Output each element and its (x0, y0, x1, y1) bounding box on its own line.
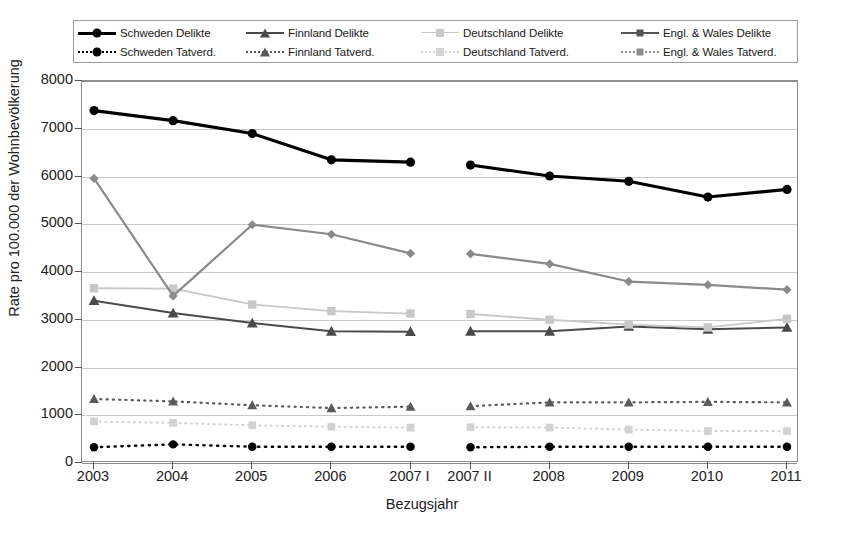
data-point-marker (406, 158, 415, 167)
data-point-marker (783, 315, 791, 323)
legend-item-label: Deutschland Delikte (463, 27, 563, 39)
data-point-marker (704, 443, 712, 451)
data-point-marker (625, 443, 633, 451)
x-tick-mark-2007-II (470, 462, 471, 469)
data-point-marker (248, 443, 256, 451)
series-layer (82, 81, 799, 463)
legend-item-finnland-delikte[interactable]: Finnland Delikte (246, 26, 421, 39)
legend-symbol-triangle-icon (246, 45, 284, 58)
legend-marker-circle-icon (93, 28, 102, 37)
legend-item-label: Finnland Delikte (288, 27, 369, 39)
y-tick-mark-4000 (75, 271, 82, 272)
y-tick-label-7000: 7000 (15, 119, 73, 135)
x-tick-mark-2011 (786, 462, 787, 469)
legend-symbol-triangle-icon (246, 26, 284, 39)
legend-item-engl-wales-tatverd[interactable]: Engl. & Wales Tatverd. (621, 45, 799, 58)
x-axis-title: Bezugsjahr (0, 496, 844, 512)
legend-grid: Schweden DelikteFinnland DelikteDeutschl… (78, 23, 793, 61)
y-tick-label-2000: 2000 (15, 358, 73, 374)
data-point-marker (545, 259, 554, 268)
legend-item-deutschland-delikte[interactable]: Deutschland Delikte (421, 26, 621, 39)
x-tick-label-2003: 2003 (77, 468, 109, 484)
x-tick-label-2006: 2006 (314, 468, 346, 484)
x-tick-label-2004: 2004 (156, 468, 188, 484)
data-point-marker (169, 419, 177, 427)
data-point-marker (624, 397, 634, 406)
data-point-marker (703, 192, 712, 201)
data-point-marker (466, 160, 475, 169)
chart-figure: Schweden DelikteFinnland DelikteDeutschl… (0, 0, 844, 534)
legend-item-label: Finnland Tatverd. (288, 46, 374, 58)
legend-item-label: Engl. & Wales Delikte (663, 27, 771, 39)
legend-marker-circle-icon (93, 47, 102, 56)
legend-marker-diamond-icon (637, 29, 644, 36)
data-point-marker (704, 323, 712, 331)
gridline-0 (82, 463, 797, 464)
x-tick-mark-2007-I (410, 462, 411, 469)
data-point-marker (466, 249, 475, 258)
data-point-marker (89, 295, 100, 305)
x-tick-mark-2006 (330, 462, 331, 469)
y-tick-label-5000: 5000 (15, 214, 73, 230)
data-point-marker (704, 427, 712, 435)
data-point-marker (546, 424, 554, 432)
data-point-marker (89, 394, 99, 403)
legend-symbol-square-icon (421, 45, 459, 58)
x-tick-mark-2010 (707, 462, 708, 469)
data-point-marker (327, 155, 336, 164)
legend-symbol-circle-icon (78, 26, 116, 39)
y-tick-mark-6000 (75, 176, 82, 177)
legend-item-label: Deutschland Tatverd. (463, 46, 569, 58)
x-tick-label-2010: 2010 (691, 468, 723, 484)
y-tick-label-8000: 8000 (15, 71, 73, 87)
legend-item-deutschland-tatverd[interactable]: Deutschland Tatverd. (421, 45, 621, 58)
x-tick-label-2007-II: 2007 II (447, 468, 491, 484)
legend-symbol-diamond-icon (621, 26, 659, 39)
data-point-marker (327, 443, 335, 451)
y-tick-mark-5000 (75, 223, 82, 224)
y-tick-mark-7000 (75, 128, 82, 129)
x-tick-label-2007-I: 2007 I (389, 468, 429, 484)
y-tick-label-3000: 3000 (15, 310, 73, 326)
legend-marker-diamond-icon (637, 48, 644, 55)
legend-symbol-diamond-icon (621, 45, 659, 58)
data-point-marker (169, 440, 177, 448)
series-finnland-tatverd (89, 394, 792, 412)
y-tick-label-1000: 1000 (15, 405, 73, 421)
legend-item-schweden-delikte[interactable]: Schweden Delikte (78, 26, 246, 39)
x-tick-label-2009: 2009 (612, 468, 644, 484)
y-tick-mark-2000 (75, 367, 82, 368)
legend-symbol-circle-icon (78, 45, 116, 58)
x-tick-label-2008: 2008 (532, 468, 564, 484)
series-finnland-delikte (89, 295, 793, 336)
y-tick-mark-8000 (75, 80, 82, 81)
legend-item-finnland-tatverd[interactable]: Finnland Tatverd. (246, 45, 421, 58)
data-point-marker (90, 418, 98, 426)
data-point-marker (467, 423, 475, 431)
legend-marker-square-icon (436, 48, 444, 56)
data-point-marker (247, 400, 257, 409)
legend-marker-square-icon (436, 29, 444, 37)
data-point-marker (625, 320, 633, 328)
x-tick-mark-2004 (172, 462, 173, 469)
plot-area (81, 80, 798, 462)
series-schweden-tatverd (90, 440, 791, 451)
x-tick-label-2011: 2011 (770, 468, 801, 484)
legend-item-label: Schweden Tatverd. (120, 46, 216, 58)
x-tick-mark-2003 (93, 462, 94, 469)
data-point-marker (545, 171, 554, 180)
legend-item-engl-wales-delikte[interactable]: Engl. & Wales Delikte (621, 26, 799, 39)
legend-item-schweden-tatverd[interactable]: Schweden Tatverd. (78, 45, 246, 58)
y-tick-mark-3000 (75, 319, 82, 320)
data-point-marker (327, 307, 335, 315)
x-tick-mark-2009 (628, 462, 629, 469)
data-point-marker (625, 426, 633, 434)
data-point-marker (624, 177, 633, 186)
data-point-marker (248, 421, 256, 429)
data-point-marker (545, 316, 553, 324)
series-deutschland-tatverd (90, 418, 791, 435)
x-tick-mark-2008 (549, 462, 550, 469)
y-tick-label-6000: 6000 (15, 167, 73, 183)
y-tick-label-4000: 4000 (15, 262, 73, 278)
data-point-marker (406, 249, 415, 258)
